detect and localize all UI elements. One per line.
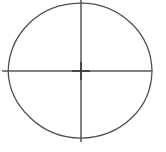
- figure-canvas: Circle with crosshair axes A hand-drawn …: [0, 0, 166, 152]
- circle-crosshair-diagram: Circle with crosshair axes A hand-drawn …: [0, 0, 166, 152]
- background-rect: [0, 0, 166, 152]
